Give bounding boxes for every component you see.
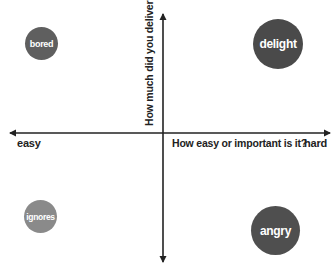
- bubble-ignores: ignores: [24, 200, 57, 233]
- x-axis-right-label: hard: [304, 137, 327, 149]
- bubble-delight-label: delight: [259, 37, 296, 51]
- bubble-bored-label: bored: [30, 39, 54, 49]
- x-axis-title: How easy or important is it?: [172, 137, 307, 149]
- bubble-angry-label: angry: [260, 224, 291, 238]
- bubble-angry: angry: [251, 206, 300, 255]
- y-axis-title: How much did you deliver?: [143, 0, 155, 126]
- quadrant-diagram: How much did you deliver? easy How easy …: [0, 0, 334, 270]
- bubble-bored: bored: [25, 27, 58, 60]
- bubble-delight: delight: [253, 19, 303, 69]
- bubble-ignores-label: ignores: [26, 212, 55, 222]
- x-axis-left-label: easy: [17, 137, 41, 149]
